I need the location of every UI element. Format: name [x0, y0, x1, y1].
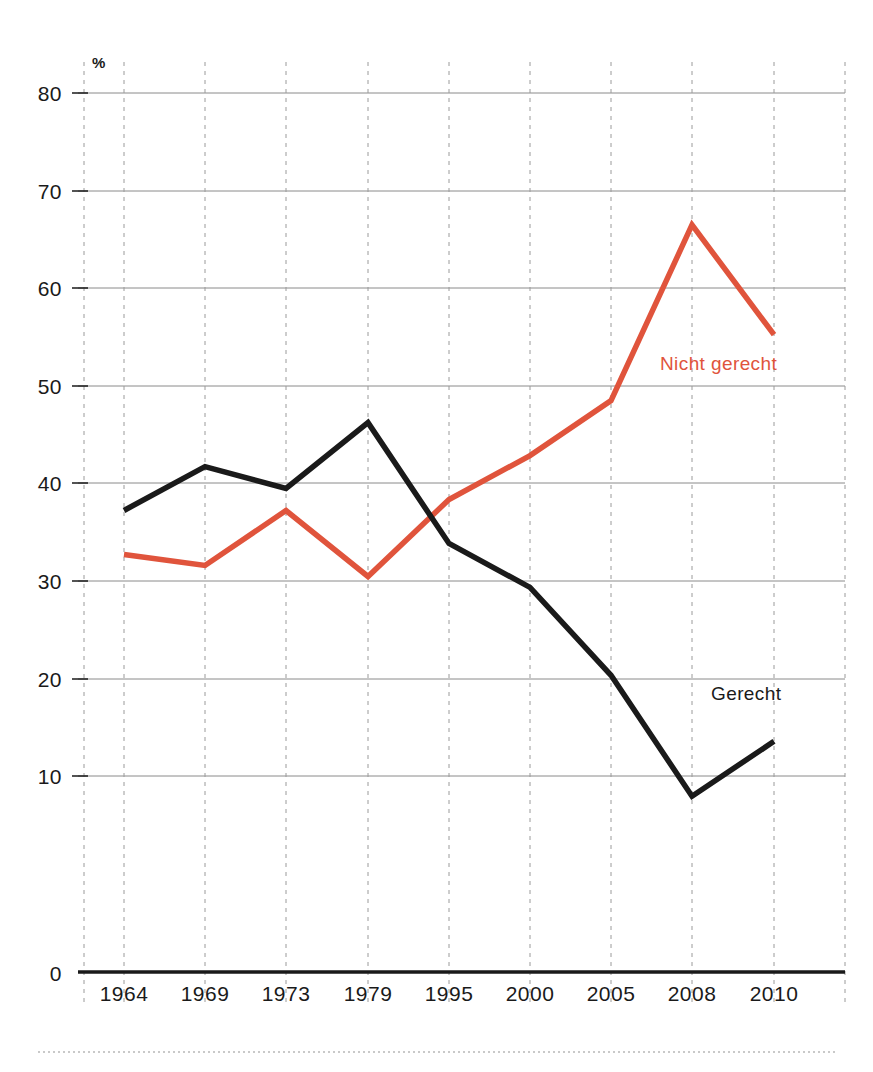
x-tick-label-1973: 1973 [262, 982, 311, 1005]
x-tick-label-2010: 2010 [750, 982, 799, 1005]
x-tick-label-1979: 1979 [344, 982, 393, 1005]
y-axis-tick-marks [72, 93, 88, 776]
vertical-gridlines [84, 62, 845, 1005]
y-tick-label-20: 20 [38, 668, 62, 691]
chart-figure: 80 70 60 50 40 30 20 10 0 % Nicht gerech… [0, 0, 873, 1072]
y-tick-label-60: 60 [38, 277, 62, 300]
horizontal-gridlines [78, 93, 845, 776]
x-tick-label-1995: 1995 [425, 982, 474, 1005]
y-tick-label-70: 70 [38, 180, 62, 203]
y-tick-label-40: 40 [38, 472, 62, 495]
y-axis-labels: 80 70 60 50 40 30 20 10 0 [38, 82, 62, 985]
series-label-gerecht: Gerecht [711, 683, 782, 704]
y-tick-label-80: 80 [38, 82, 62, 105]
line-chart-plot: 80 70 60 50 40 30 20 10 0 % Nicht gerech… [0, 0, 873, 1072]
x-axis-labels: 1964 1969 1973 1979 1995 2000 2005 2008 … [100, 982, 799, 1005]
x-tick-label-1969: 1969 [181, 982, 230, 1005]
x-tick-label-2008: 2008 [668, 982, 717, 1005]
x-tick-label-1964: 1964 [100, 982, 149, 1005]
series-label-nicht-gerecht: Nicht gerecht [660, 353, 777, 374]
x-tick-label-2000: 2000 [506, 982, 555, 1005]
y-axis-unit-label: % [92, 54, 105, 71]
y-tick-label-30: 30 [38, 570, 62, 593]
y-tick-label-0: 0 [50, 962, 62, 985]
y-tick-label-10: 10 [38, 765, 62, 788]
y-tick-label-50: 50 [38, 375, 62, 398]
x-tick-label-2005: 2005 [587, 982, 636, 1005]
